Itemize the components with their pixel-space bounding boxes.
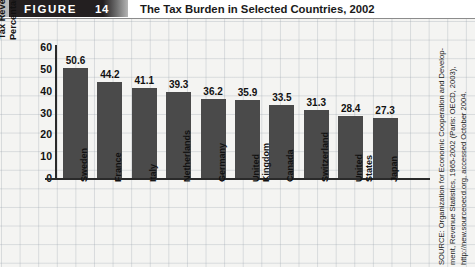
figure-title: The Tax Burden in Selected Countries, 20… — [140, 2, 375, 16]
bar-value-label: 35.9 — [228, 87, 267, 98]
source-line: ment, Revenue Statistics, 1965-2002 (Par… — [449, 67, 457, 265]
y-tick-label: 30 — [18, 108, 52, 118]
header-rule — [0, 18, 437, 20]
source-note: SOURCE: Organization for Economic Cooper… — [437, 19, 475, 267]
y-axis-title: Tax Revenues as a Percentage of GDP — [0, 0, 19, 58]
source-line: SOURCE: Organization for Economic Cooper… — [438, 48, 446, 265]
figure-header: FIGURE 14 The Tax Burden in Selected Cou… — [0, 0, 475, 19]
y-tick-label: 20 — [18, 129, 52, 139]
y-tick-label: 10 — [18, 151, 52, 161]
y-tick-label: 60 — [18, 42, 52, 52]
bar-value-label: 41.1 — [125, 75, 164, 86]
figure-page: FIGURE 14 The Tax Burden in Selected Cou… — [0, 0, 475, 267]
source-line: http://new.sourceoecd.org, accessed Octo… — [460, 92, 468, 266]
bar-value-label: 39.3 — [159, 79, 198, 90]
y-tick-label: 40 — [18, 86, 52, 96]
bar-value-label: 44.2 — [90, 69, 129, 80]
y-tick-label: 50 — [18, 64, 52, 74]
bar-value-label: 36.2 — [194, 86, 233, 97]
bar-value-label: 50.6 — [56, 55, 95, 66]
figure-number: 14 — [95, 2, 109, 16]
